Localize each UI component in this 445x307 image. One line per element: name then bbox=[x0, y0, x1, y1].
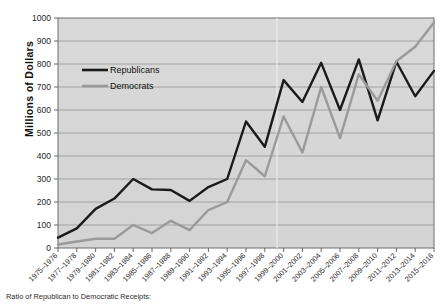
legend-label-democrats: Democrats bbox=[110, 81, 154, 91]
svg-text:800: 800 bbox=[37, 59, 51, 69]
x-axis-tick-marks bbox=[58, 248, 434, 252]
chart-container: Millions of Dollars 01002003004005006007… bbox=[0, 0, 445, 307]
svg-text:900: 900 bbox=[37, 36, 51, 46]
line-chart-svg: 01002003004005006007008009001000 1975–19… bbox=[0, 0, 445, 307]
legend-label-republicans: Republicans bbox=[110, 65, 160, 75]
y-axis-tick-labels: 01002003004005006007008009001000 bbox=[32, 13, 58, 253]
svg-text:400: 400 bbox=[37, 151, 51, 161]
svg-text:200: 200 bbox=[37, 197, 51, 207]
svg-text:700: 700 bbox=[37, 82, 51, 92]
svg-text:600: 600 bbox=[37, 105, 51, 115]
svg-text:0: 0 bbox=[46, 243, 51, 253]
footer-note: Ratio of Republican to Democratic Receip… bbox=[6, 292, 151, 301]
svg-text:100: 100 bbox=[37, 220, 51, 230]
svg-text:300: 300 bbox=[37, 174, 51, 184]
x-axis-tick-labels: 1975–19761977–19781979–19801981–19821983… bbox=[27, 251, 436, 284]
svg-text:500: 500 bbox=[37, 128, 51, 138]
svg-text:1000: 1000 bbox=[32, 13, 51, 23]
